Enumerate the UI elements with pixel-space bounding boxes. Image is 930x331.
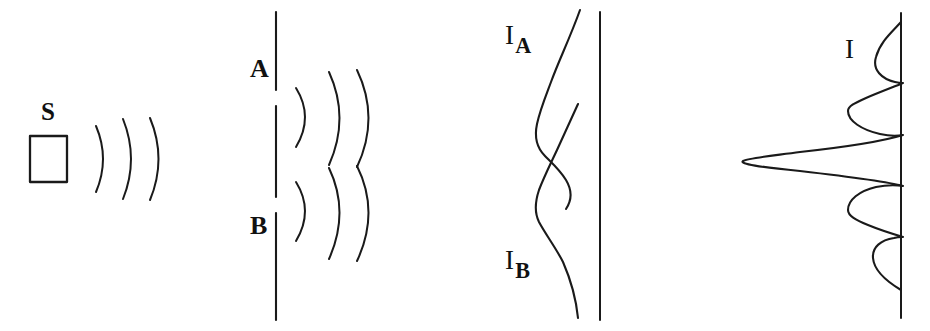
intensity-pattern-curve [743,22,903,290]
superposition-panel [536,10,600,320]
slit-a-wave-arc-2 [329,72,340,165]
diagram-canvas [0,0,930,331]
source-label: S [41,99,55,124]
intensity-a-label-main: I [505,20,514,50]
slit-b-wave-arc-1 [296,182,305,241]
slit-a-label: A [250,56,269,82]
slit-b-wave-arc-2 [329,168,340,259]
source-panel [30,118,159,200]
slit-a-wave-arc-3 [357,70,369,167]
source-wave-arc-1 [96,126,103,192]
intensity-a-label: IA [505,22,530,49]
source-box [30,136,67,182]
intensity-curve-b [536,104,578,318]
slit-a-wave-arc-1 [296,88,305,147]
slit-b-wave-arc-3 [357,166,369,261]
physics-diagram-figure: S A B IA IB I [0,0,930,331]
intensity-b-label-subscript: B [515,260,530,282]
intensity-pattern-label: I [845,36,854,63]
slit-b-label: B [250,213,267,239]
intensity-b-label: IB [505,247,529,274]
source-wave-arc-2 [123,119,131,199]
source-wave-arc-3 [150,118,159,200]
barrier-panel [276,12,369,320]
pattern-panel [743,13,903,318]
intensity-a-label-subscript: A [515,35,531,57]
intensity-b-label-main: I [505,245,514,275]
